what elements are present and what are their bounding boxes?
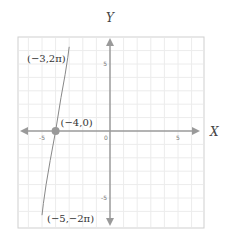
annotation-top: (−3,2π): [27, 53, 66, 64]
y-arrow-down-icon: [106, 218, 114, 226]
y-tick-label: -5: [101, 194, 107, 201]
y-axis-label: Y: [106, 11, 115, 25]
y-tick-label: 5: [103, 60, 107, 67]
x-arrow-right-icon: [192, 127, 200, 135]
graph-canvas: -5055-5 (−4,0) (−3,2π)(−5,−2π) X Y: [0, 0, 227, 236]
x-axis-label: X: [209, 125, 219, 139]
y-arrow-up-icon: [106, 38, 114, 46]
x-tick-label: 0: [104, 134, 108, 141]
annotation-bottom: (−5,−2π): [47, 213, 94, 224]
x-arrow-left-icon: [20, 127, 28, 135]
x-tick-label: -5: [39, 134, 45, 141]
point-label: (−4,0): [61, 117, 93, 128]
x-tick-label: 5: [176, 134, 180, 141]
point-marker: [52, 127, 60, 135]
grid-lines: [19, 38, 203, 227]
plot-frame: [18, 37, 204, 228]
